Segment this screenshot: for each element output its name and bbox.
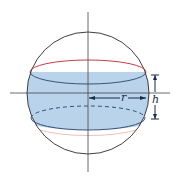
height-dimension: h bbox=[151, 75, 159, 119]
arrow-up-icon bbox=[153, 75, 157, 80]
height-label: h bbox=[152, 93, 159, 106]
radius-label: r bbox=[121, 91, 127, 104]
arrow-down-icon bbox=[153, 114, 157, 119]
sphere-band-diagram: r h bbox=[0, 0, 178, 180]
